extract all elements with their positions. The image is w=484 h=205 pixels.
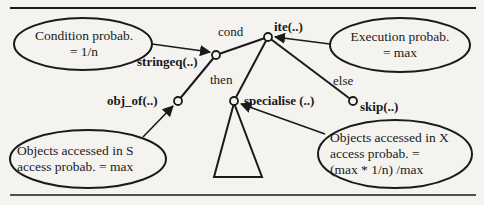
edge-label-cond: cond — [218, 25, 243, 38]
node-specialise — [230, 97, 238, 105]
objects-s-annotation: Objects accessed in S access probab. = m… — [17, 143, 134, 175]
objects-x-annotation: Objects accessed in X access probab. = (… — [330, 130, 449, 178]
objects-x-line-3: (max * 1/n) /max — [330, 162, 449, 178]
node-label-ite: ite(..) — [274, 20, 303, 33]
objects-s-line-1: Objects accessed in S — [17, 143, 134, 159]
node-label-specialise: specialise (..) — [244, 94, 314, 107]
condition-line-1: Condition probab. — [24, 28, 144, 44]
node-label-obj-of: obj_of(..) — [107, 94, 158, 107]
arrow-condition-to-stringeq — [152, 44, 210, 52]
execution-line-1: Execution probab. — [340, 29, 460, 45]
node-obj-of — [174, 97, 182, 105]
node-label-skip: skip(..) — [360, 100, 398, 113]
objects-x-line-1: Objects accessed in X — [330, 130, 449, 146]
arrow-objects-x-to-specialise — [241, 104, 325, 134]
arrow-objects-s-to-objof — [143, 106, 173, 137]
condition-line-2: = 1/n — [24, 44, 144, 60]
objects-s-line-2: access probab. = max — [17, 159, 134, 175]
condition-annotation: Condition probab. = 1/n — [24, 28, 144, 60]
node-label-stringeq: stringeq(..) — [137, 55, 198, 68]
execution-line-2: = max — [340, 45, 460, 61]
node-ite — [264, 33, 272, 41]
execution-annotation: Execution probab. = max — [340, 29, 460, 61]
node-stringeq — [212, 51, 220, 59]
edge-label-else: else — [333, 74, 353, 87]
edge-label-then: then — [210, 73, 232, 86]
subtree-triangle — [214, 103, 262, 177]
arrow-execution-to-ite — [275, 37, 330, 44]
objects-x-line-2: access probab. = — [330, 146, 449, 162]
diagram-figure: ite(..) stringeq(..) obj_of(..) speciali… — [0, 0, 484, 205]
node-skip — [349, 97, 357, 105]
